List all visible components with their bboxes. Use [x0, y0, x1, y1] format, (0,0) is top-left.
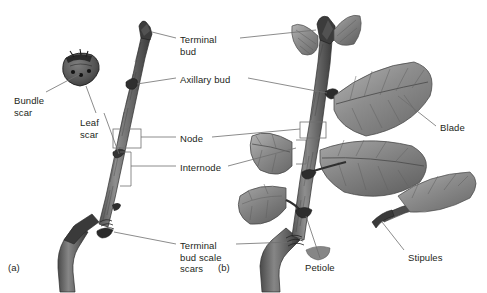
- leader-leaf-scar-twig: [104, 113, 119, 154]
- label-stipules: Stipules: [408, 252, 443, 264]
- leader-axillary-bud-a: [137, 78, 176, 84]
- leader-terminal-bud-a: [152, 32, 176, 38]
- label-terminal-bud: Terminal bud: [180, 34, 217, 57]
- label-node: Node: [180, 133, 203, 145]
- twig-illustration: [0, 0, 487, 293]
- botanical-figure: Terminal bud Axillary bud Node Internode…: [0, 0, 487, 293]
- leader-leaf-scar-inset: [86, 86, 96, 113]
- label-bundle-scar: Bundle scar: [14, 95, 44, 118]
- leader-stipules: [382, 222, 404, 250]
- leader-bud-scale-scars-a: [114, 232, 176, 244]
- label-internode: Internode: [180, 162, 221, 174]
- label-blade: Blade: [440, 122, 465, 134]
- label-petiole: Petiole: [305, 262, 335, 274]
- label-axillary-bud: Axillary bud: [180, 74, 230, 86]
- panel-label-b: (b): [218, 262, 230, 273]
- panel-label-a: (a): [8, 262, 20, 273]
- label-terminal-bud-scale-scars: Terminal bud scale scars: [180, 240, 222, 275]
- label-leaf-scar: Leaf scar: [80, 117, 99, 140]
